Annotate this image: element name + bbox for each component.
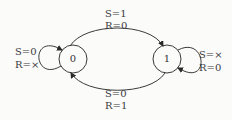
right-loop-s-label: S=× bbox=[199, 49, 223, 60]
right-loop-r-label: R=0 bbox=[199, 62, 221, 73]
bottom-transition-r-label: R=1 bbox=[105, 100, 127, 111]
left-loop-s-label: S=0 bbox=[15, 46, 37, 57]
sr-latch-state-diagram: 0 1 S=1 R=0 S=0 R=1 S=0 R=× S=× R=0 bbox=[0, 0, 232, 120]
self-loop-0-arrow bbox=[39, 46, 62, 70]
state-1-label: 1 bbox=[157, 53, 177, 65]
bottom-transition-s-label: S=0 bbox=[105, 88, 127, 99]
left-loop-r-label: R=× bbox=[15, 59, 39, 70]
top-transition-r-label: R=0 bbox=[105, 20, 127, 31]
state-0-label: 0 bbox=[63, 53, 83, 65]
top-transition-s-label: S=1 bbox=[105, 8, 127, 19]
